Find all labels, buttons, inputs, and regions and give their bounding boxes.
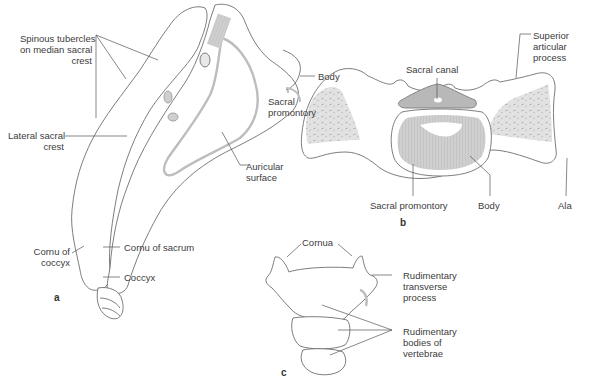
label-sacral-canal: Sacral canal (406, 64, 458, 75)
sacrum-superior-drawing (301, 69, 556, 179)
label-ala: Ala (558, 200, 572, 211)
panel-letter-b: b (400, 217, 406, 228)
label-body-b: Body (478, 200, 500, 211)
label-sacral-promontory-b: Sacral promontory (370, 200, 448, 211)
label-sacral-promontory-a: Sacral promontory (268, 96, 316, 118)
label-spinous-tubercles: Spinous tubercles on median sacral crest (20, 33, 92, 66)
label-body-a: Body (318, 71, 340, 82)
panel-letter-a: a (54, 292, 60, 303)
panel-letter-c: c (281, 367, 287, 378)
label-cornu-of-coccyx: Cornu of coccyx (20, 246, 70, 268)
label-coccyx: Coccyx (124, 272, 155, 283)
label-cornu-of-sacrum: Cornu of sacrum (124, 242, 194, 253)
coccyx-drawing (266, 256, 377, 375)
label-superior-articular-process: Superior articular process (533, 30, 569, 63)
label-lateral-sacral-crest: Lateral sacral crest (8, 130, 64, 152)
label-rudimentary-transverse-process: Rudimentary transverse process (403, 270, 457, 303)
label-cornua: Cornua (302, 237, 333, 248)
label-auricular-surface: Auricular surface (246, 161, 284, 183)
label-rudimentary-bodies: Rudimentary bodies of vertebrae (403, 326, 457, 359)
